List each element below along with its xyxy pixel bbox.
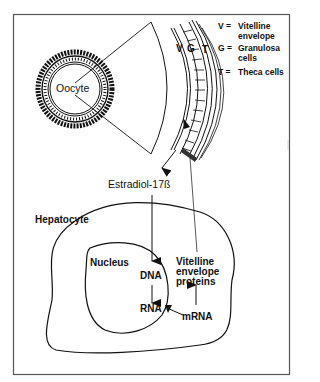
legend-key-v: V =: [218, 22, 231, 31]
oocyte-label: Oocyte: [56, 83, 89, 94]
layer-marker-v: V: [176, 44, 183, 55]
legend-key-t: T =: [218, 68, 231, 77]
estradiol-release-arrow: [162, 150, 176, 168]
legend-value-v-line1: Vitelline: [238, 22, 270, 31]
zoom-line-top: [75, 22, 151, 83]
hepatocyte-label: Hepatocyte: [35, 215, 89, 226]
dna-label: DNA: [140, 271, 162, 282]
layer-marker-g: G: [187, 44, 195, 55]
rna-label: RNA: [140, 304, 162, 315]
legend-value-g-line1: Granulosa: [238, 44, 280, 53]
mrna-label: mRNA: [182, 312, 213, 323]
estradiol-label: Estradiol-17ß: [108, 179, 170, 190]
transport-line: [190, 158, 197, 252]
follicle-enlarged-section: [151, 20, 224, 162]
legend-key-g: G =: [218, 44, 232, 53]
layer-marker-t: T: [202, 45, 208, 56]
vitelline-proteins-line3: proteins: [176, 277, 215, 288]
legend-value-v-line2: envelope: [238, 32, 275, 41]
legend-value-t-line1: Theca cells: [238, 68, 284, 77]
nucleus-label: Nucleus: [90, 258, 129, 269]
legend-value-g-line2: cells: [238, 54, 257, 63]
